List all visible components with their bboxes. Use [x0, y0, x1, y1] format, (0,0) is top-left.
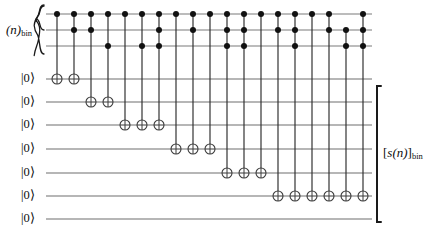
control-dot-c11-w0: [224, 11, 230, 17]
control-dot-c15-w2: [292, 43, 298, 49]
control-dot-c13-w0: [258, 11, 264, 17]
control-dot-c3-w0: [88, 11, 94, 17]
output-label-sub: bin: [412, 151, 423, 161]
output-label-main: s(n): [387, 145, 407, 160]
control-dot-c1-w0: [54, 11, 60, 17]
control-dot-c19-w2: [360, 43, 366, 49]
gate-column-11: [222, 11, 232, 178]
ket-label-a3: |0⟩: [21, 142, 35, 155]
ket-label-a5: |0⟩: [21, 189, 35, 202]
input-register-wires: [46, 14, 372, 46]
gate-column-9: [188, 11, 198, 154]
input-register-label-sub: bin: [21, 28, 32, 38]
ket-label-a0: |0⟩: [21, 72, 35, 85]
gate-column-8: [171, 11, 181, 154]
ket-label-a4: |0⟩: [21, 166, 35, 179]
circuit-canvas: [0, 0, 432, 232]
control-dot-c14-w1: [275, 27, 281, 33]
control-dot-c7-w2: [156, 43, 162, 49]
control-dot-c9-w1: [190, 27, 196, 33]
control-dot-c10-w0: [207, 11, 213, 17]
control-dot-c11-w1: [224, 27, 230, 33]
gate-column-1: [52, 11, 62, 84]
input-register-label-main: (n): [6, 22, 21, 37]
gate-column-18: [341, 27, 351, 201]
ket-label-a2: |0⟩: [21, 118, 35, 131]
gate-column-2: [69, 11, 79, 84]
control-dot-c18-w2: [343, 43, 349, 49]
control-dot-c9-w0: [190, 11, 196, 17]
input-register-label: (n)bin: [6, 23, 32, 36]
control-dot-c12-w1: [241, 27, 247, 33]
control-dot-c2-w0: [71, 11, 77, 17]
gate-column-10: [205, 11, 215, 154]
control-dot-c14-w0: [275, 11, 281, 17]
control-dot-c7-w0: [156, 11, 162, 17]
ket-label-a1: |0⟩: [21, 95, 35, 108]
control-dot-c6-w2: [139, 43, 145, 49]
control-dot-c2-w1: [71, 27, 77, 33]
control-dot-c15-w0: [292, 11, 298, 17]
control-dot-c4-w2: [105, 43, 111, 49]
gate-column-13: [256, 11, 266, 178]
control-dot-c18-w1: [343, 27, 349, 33]
output-register-label: [s(n)]bin: [383, 146, 423, 159]
gate-column-6: [137, 11, 147, 130]
control-dot-c4-w0: [105, 11, 111, 17]
quantum-circuit-figure: (n)bin |0⟩ |0⟩ |0⟩ |0⟩ |0⟩ |0⟩ |0⟩ [s(n)…: [0, 0, 432, 232]
control-dot-c19-w0: [360, 11, 366, 17]
gate-column-12: [239, 11, 249, 178]
control-dot-c19-w1: [360, 27, 366, 33]
control-dot-c6-w0: [139, 11, 145, 17]
control-dot-c16-w0: [309, 11, 315, 17]
output-register-bracket: [377, 86, 381, 222]
control-dot-c12-w0: [241, 11, 247, 17]
control-dot-c11-w2: [224, 43, 230, 49]
control-dot-c7-w1: [156, 27, 162, 33]
control-dot-c3-w1: [88, 27, 94, 33]
control-dot-c17-w0: [326, 11, 332, 17]
control-dot-c5-w0: [122, 11, 128, 17]
gate-column-5: [120, 11, 130, 130]
control-dot-c15-w1: [292, 27, 298, 33]
gate-column-3: [86, 11, 96, 107]
ket-label-a6: |0⟩: [21, 212, 35, 225]
gate-column-4: [103, 11, 113, 107]
control-dot-c12-w2: [241, 43, 247, 49]
gate-column-7: [154, 11, 164, 130]
control-dot-c8-w0: [173, 11, 179, 17]
control-dot-c17-w1: [326, 27, 332, 33]
